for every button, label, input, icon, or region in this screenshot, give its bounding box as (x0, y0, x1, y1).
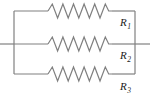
resistor-3-symbol (48, 67, 112, 81)
resistor-1-label: R1 (119, 16, 131, 31)
branch-2: R2 (14, 37, 135, 64)
resistor-2-symbol (48, 37, 112, 51)
resistor-2-label-main: R (119, 49, 127, 61)
resistor-2-label-subscript: 2 (127, 55, 131, 64)
resistor-1-label-main: R (119, 16, 127, 28)
resistor-1-symbol (48, 4, 112, 18)
resistor-2-label: R2 (119, 49, 131, 64)
branch-3: R3 (14, 67, 135, 95)
branch-1: R1 (14, 4, 135, 31)
resistor-1-label-subscript: 1 (127, 22, 131, 31)
circuit-diagram-canvas: R1 R2 R3 (0, 0, 150, 97)
circuit-figure: R1 R2 R3 (0, 0, 150, 97)
resistor-3-label: R3 (119, 80, 131, 95)
resistor-3-label-subscript: 3 (126, 86, 131, 95)
resistor-3-label-main: R (119, 80, 127, 92)
